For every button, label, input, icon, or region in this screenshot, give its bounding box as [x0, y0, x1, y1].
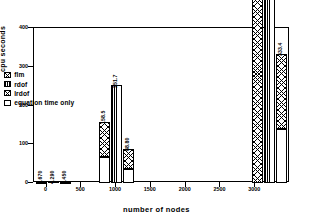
- bar-segment-rdof: [111, 85, 122, 183]
- bar-segment-rdof: [264, 0, 275, 183]
- x-tick-mark: [185, 182, 186, 187]
- bar-segment-equation-time-only: [99, 157, 110, 183]
- legend-item-rdof: rdof: [4, 79, 74, 88]
- legend-label: flm: [14, 71, 24, 78]
- bar-segment-equation-time-only: [276, 129, 287, 183]
- bar-segment-lrdof: [123, 149, 134, 169]
- chart-figure: cpu seconds number of nodes 010020030040…: [0, 0, 313, 222]
- legend-item-equation-time-only: equation time only: [4, 98, 74, 107]
- x-tick-mark: [219, 182, 220, 187]
- bar-value-label: 158.5: [100, 111, 106, 124]
- legend-swatch: [4, 90, 11, 96]
- y-tick-label: 300: [6, 63, 28, 69]
- bar: [264, 0, 275, 183]
- bar: [252, 0, 263, 183]
- x-axis-label: number of nodes: [0, 205, 313, 214]
- x-tick-mark: [80, 182, 81, 187]
- bar-value-label: 333.4: [277, 43, 283, 56]
- bar-segment-flm: [99, 122, 110, 158]
- legend-label: lrdof: [14, 90, 29, 97]
- bar-value-label: 4.290: [49, 170, 55, 183]
- legend-item-lrdof: lrdof: [4, 89, 74, 98]
- y-tick-label: 100: [6, 140, 28, 146]
- y-tick-mark: [28, 182, 33, 183]
- bar: [99, 122, 110, 183]
- bar-segment-lrdof: [276, 54, 287, 129]
- legend-swatch: [4, 81, 11, 87]
- bar-value-label: 88.80: [124, 138, 130, 151]
- legend-swatch: [4, 72, 11, 78]
- bar-segment-equation-time-only: [123, 169, 134, 183]
- bar-value-label: 4.450: [61, 170, 67, 183]
- x-tick-mark: [150, 182, 151, 187]
- bar: [276, 54, 287, 183]
- y-tick-label: 0: [6, 179, 28, 185]
- bar: [111, 85, 122, 183]
- legend-item-flm: flm: [4, 70, 74, 79]
- bar-value-label: 4.670: [37, 170, 43, 183]
- bar: [123, 149, 134, 183]
- bar-value-label: 251.7: [112, 74, 118, 87]
- legend-swatch: [4, 100, 11, 106]
- bar-segment-flm: [252, 0, 263, 183]
- legend-label: rdof: [14, 81, 27, 88]
- legend-label: equation time only: [14, 99, 74, 106]
- chart-legend: flmrdoflrdofequation time only: [4, 70, 74, 108]
- y-tick-label: 400: [6, 24, 28, 30]
